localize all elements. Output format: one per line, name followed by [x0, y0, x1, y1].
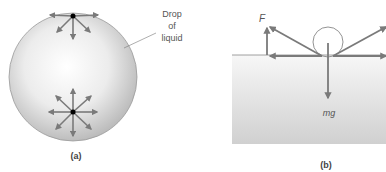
drop-label-line2: of	[168, 21, 176, 31]
panel-a: Drop of liquid (a)	[9, 9, 183, 161]
caption-b: (b)	[320, 160, 332, 170]
weight-label-mg: mg	[323, 108, 336, 118]
drop-label-line1: Drop	[162, 9, 182, 19]
panel-b: F mg (b)	[232, 13, 386, 170]
force-label-F: F	[259, 13, 266, 24]
liquid-surface-body	[232, 55, 386, 144]
surface-tension-forces	[267, 27, 386, 56]
interior-molecule	[71, 110, 76, 115]
caption-a: (a)	[71, 151, 82, 161]
drop-label-leader	[124, 33, 156, 48]
surface-molecule	[71, 14, 76, 19]
drop-label-line3: liquid	[161, 33, 182, 43]
surface-tension-diagram: Drop of liquid (a) F mg (b)	[0, 0, 386, 172]
